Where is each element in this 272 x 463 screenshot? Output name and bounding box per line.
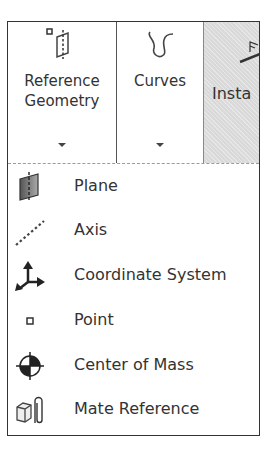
reference-geometry-dropdown-panel: Reference Geometry Curves Insta <box>7 21 260 436</box>
axis-icon <box>14 215 46 247</box>
menu-item-coordinate-system[interactable]: Coordinate System <box>8 256 259 296</box>
mate-reference-icon <box>14 394 46 426</box>
menu-item-label: Coordinate System <box>74 265 226 285</box>
chevron-down-icon[interactable] <box>156 143 164 147</box>
curves-button[interactable]: Curves <box>117 22 204 163</box>
center-of-mass-icon <box>14 350 46 382</box>
menu-item-label: Point <box>74 310 114 330</box>
reference-geometry-button[interactable]: Reference Geometry <box>8 22 117 163</box>
menu-item-label: Mate Reference <box>74 399 199 419</box>
chevron-down-icon[interactable] <box>58 143 66 147</box>
menu-item-axis[interactable]: Axis <box>8 211 259 251</box>
instant3d-label: Insta <box>212 84 259 104</box>
menu-item-mate-reference[interactable]: Mate Reference <box>8 390 259 430</box>
menu-item-label: Plane <box>74 176 118 196</box>
instant3d-button[interactable]: Insta <box>204 22 259 163</box>
reference-geometry-icon <box>44 27 80 61</box>
coordinate-system-icon <box>14 260 46 292</box>
menu-item-center-of-mass[interactable]: Center of Mass <box>8 346 259 386</box>
instant3d-icon <box>238 40 259 68</box>
point-icon <box>14 305 46 337</box>
ribbon-toolbar: Reference Geometry Curves Insta <box>8 22 259 164</box>
curves-icon <box>142 26 178 62</box>
curves-label: Curves <box>117 71 203 91</box>
plane-icon <box>14 171 46 203</box>
menu-item-plane[interactable]: Plane <box>8 167 259 207</box>
menu-item-point[interactable]: Point <box>8 301 259 341</box>
menu-item-label: Axis <box>74 220 107 240</box>
reference-geometry-label: Reference Geometry <box>8 71 116 111</box>
menu-item-label: Center of Mass <box>74 355 194 375</box>
